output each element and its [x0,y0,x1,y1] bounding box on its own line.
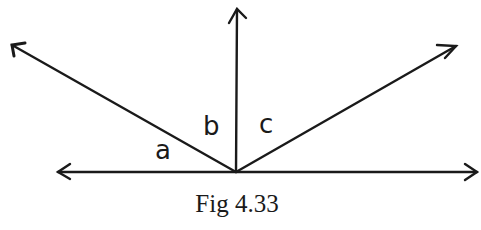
angle-label-b: b [203,113,220,139]
upper-left-ray [12,45,236,172]
figure-caption: Fig 4.33 [0,190,474,218]
angle-label-c: c [259,111,273,137]
vertical-ray [236,9,237,172]
angle-label-a: a [155,137,171,163]
